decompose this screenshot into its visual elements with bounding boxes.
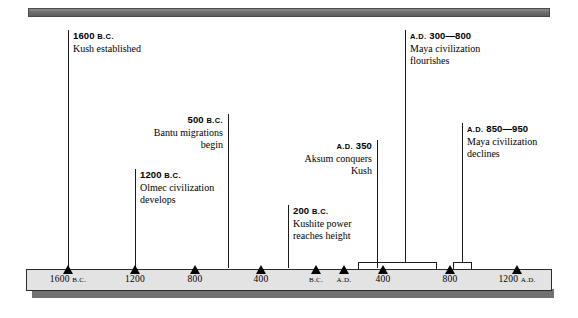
event-date: 500 B.C. — [0, 114, 223, 126]
event-date: 1600 B.C. — [73, 30, 141, 42]
axis-tick-marker — [130, 265, 140, 274]
event-description-line: Kush — [0, 165, 372, 177]
axis-tick-label: 800 — [443, 274, 458, 284]
event-description-line: declines — [467, 148, 537, 160]
axis-tick-marker — [512, 265, 522, 274]
event-leader-line — [135, 169, 136, 268]
axis-tick-marker — [378, 265, 388, 274]
event-date: A.D. 350 — [0, 140, 372, 152]
axis-tick-label: 400 — [376, 274, 391, 284]
event-leader-line — [405, 30, 406, 262]
event-description-line: develops — [140, 194, 214, 206]
event-leader-line — [462, 123, 463, 262]
event-description-line: Bantu migrations — [0, 127, 223, 139]
event-leader-line — [377, 140, 378, 268]
axis-tick-label: 1200 A.D. — [498, 274, 535, 284]
axis-tick-label: 800 — [188, 274, 203, 284]
axis-tick-marker — [311, 265, 321, 274]
event-description-line: Aksum conquers — [0, 153, 372, 165]
event-date: A.D. 850—950 — [467, 123, 537, 135]
axis-tick-marker — [190, 265, 200, 274]
event-label-maya-civilization-declines: A.D. 850—950Maya civilizationdeclines — [467, 123, 537, 160]
event-description-line: flourishes — [410, 55, 480, 67]
axis-tick-label: 1200 — [125, 274, 145, 284]
event-date: A.D. 300—800 — [410, 30, 480, 42]
axis-tick-marker — [445, 265, 455, 274]
event-description-line: reaches height — [293, 230, 352, 242]
top-decorative-rule — [28, 8, 550, 17]
axis-tick-label: 400 — [254, 274, 269, 284]
timeline-axis-bar — [26, 269, 552, 291]
axis-tick-marker — [339, 265, 349, 274]
event-description-line: Kushite power — [293, 218, 352, 230]
event-date: 200 B.C. — [293, 205, 352, 217]
axis-tick-label: B.C. — [309, 274, 323, 284]
axis-tick-marker — [256, 265, 266, 274]
axis-tick-label: A.D. — [337, 274, 352, 284]
event-description-line: Maya civilization — [410, 43, 480, 55]
event-description-line: Olmec civilization — [140, 182, 214, 194]
event-label-aksum-conquers-kush: A.D. 350Aksum conquersKush — [0, 140, 372, 177]
axis-tick-label: 1600 B.C. — [50, 274, 86, 284]
event-description-line: Maya civilization — [467, 136, 537, 148]
timeline-figure: 1600 B.C.Kush established1200 B.C.Olmec … — [0, 0, 578, 318]
event-description-line: Kush established — [73, 43, 141, 55]
axis-tick-marker — [63, 265, 73, 274]
event-label-maya-civilization-flourishes: A.D. 300—800Maya civilizationflourishes — [410, 30, 480, 67]
event-label-kushite-power-reaches-height: 200 B.C.Kushite powerreaches height — [293, 205, 352, 242]
event-leader-line — [288, 205, 289, 268]
event-label-kush-established: 1600 B.C.Kush established — [73, 30, 141, 55]
event-leader-line — [228, 114, 229, 268]
